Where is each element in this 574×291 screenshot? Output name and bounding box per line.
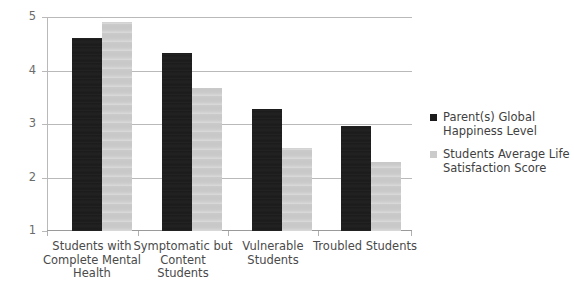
- category-separator-0: [47, 231, 48, 236]
- x-axis-label-1: Symptomatic but Content Students: [133, 240, 233, 281]
- bar-student-satisfaction-1: [192, 88, 222, 231]
- x-axis-label-2: Vulnerable Students: [223, 240, 323, 267]
- category-separator-3: [318, 231, 319, 236]
- legend: Parent(s) Global Happiness Level Student…: [430, 110, 570, 184]
- bar-chart: 5 4 3 2 1 Students with Complete Mental …: [0, 0, 574, 291]
- category-separator-2: [228, 231, 229, 236]
- bar-parent-happiness-0: [72, 38, 102, 231]
- plot-area: [47, 17, 412, 231]
- bar-student-satisfaction-2: [282, 148, 312, 231]
- legend-item-parent-happiness: Parent(s) Global Happiness Level: [430, 110, 570, 138]
- y-axis-tick-4: 4: [6, 65, 36, 77]
- legend-swatch-light-icon: [430, 151, 437, 158]
- gridline-5: [47, 17, 412, 18]
- legend-label-student-satisfaction: Students Average Life Satisfaction Score: [443, 147, 570, 175]
- y-axis-tick-5: 5: [6, 11, 36, 23]
- x-axis-label-3: Troubled Students: [311, 240, 419, 254]
- legend-swatch-dark-icon: [430, 114, 437, 121]
- bar-student-satisfaction-3: [371, 162, 401, 231]
- y-axis-tick-1: 1: [6, 225, 36, 237]
- y-axis-tick-3: 3: [6, 118, 36, 130]
- y-axis-tick-2: 2: [6, 172, 36, 184]
- legend-item-student-satisfaction: Students Average Life Satisfaction Score: [430, 147, 570, 175]
- category-separator-4: [411, 231, 412, 236]
- x-axis-label-0: Students with Complete Mental Health: [42, 240, 142, 281]
- bar-parent-happiness-1: [162, 53, 192, 231]
- bar-parent-happiness-3: [341, 126, 371, 231]
- bar-parent-happiness-2: [252, 109, 282, 231]
- category-separator-1: [138, 231, 139, 236]
- bar-student-satisfaction-0: [102, 22, 132, 231]
- legend-label-parent-happiness: Parent(s) Global Happiness Level: [443, 110, 570, 138]
